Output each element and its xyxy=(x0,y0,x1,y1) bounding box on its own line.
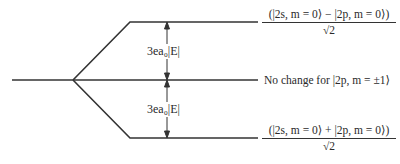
upper-state-numerator: (|2s, m = 0⟩ − |2p, m = 0⟩) xyxy=(262,7,396,23)
lower-state-denominator: √2 xyxy=(262,139,396,152)
lower-state-numerator: (|2s, m = 0⟩ + |2p, m = 0⟩) xyxy=(262,123,396,139)
upper-shift-label: 3ea₀|E| xyxy=(146,44,181,59)
upper-state-denominator: √2 xyxy=(262,23,396,36)
lower-state-label: (|2s, m = 0⟩ + |2p, m = 0⟩) √2 xyxy=(262,123,396,152)
middle-state-label: No change for |2p, m = ±1⟩ xyxy=(264,73,390,87)
upper-state-label: (|2s, m = 0⟩ − |2p, m = 0⟩) √2 xyxy=(262,7,396,36)
lower-shift-label: 3ea₀|E| xyxy=(146,102,181,117)
